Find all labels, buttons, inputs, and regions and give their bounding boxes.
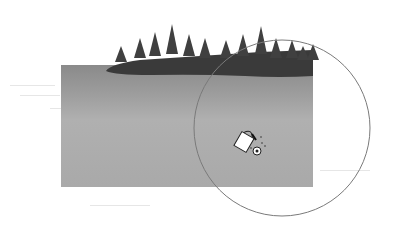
drawing-canvas[interactable] xyxy=(0,0,400,235)
pine-tree xyxy=(115,46,127,62)
pine-tree xyxy=(255,26,267,54)
pine-tree xyxy=(237,34,249,56)
scene-svg xyxy=(0,0,400,235)
pine-tree xyxy=(220,40,232,58)
paint-bucket-icon xyxy=(234,128,256,152)
pine-tree xyxy=(166,24,178,54)
pine-tree xyxy=(286,40,298,58)
target-icon xyxy=(253,147,261,155)
pine-tree xyxy=(149,32,161,56)
pine-tree xyxy=(134,38,146,58)
pine-tree xyxy=(199,38,211,58)
pine-tree xyxy=(183,34,195,56)
